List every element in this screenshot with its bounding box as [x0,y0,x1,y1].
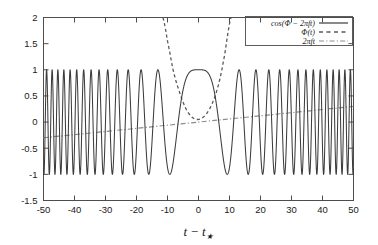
x-tick-label: 20 [255,204,266,215]
x-tick-label: -50 [37,204,51,215]
x-axis-title-subscript: ★ [206,232,214,241]
legend-label-2pift: 2πft [303,37,316,46]
y-tick-label: -0.5 [21,143,37,154]
y-tick-label: 0 [32,116,37,127]
x-tick-label: -40 [68,204,82,215]
y-tick-label: 0.5 [24,90,37,101]
legend-entry-cos: cos(Φ − 2πft) [271,19,348,28]
x-tick-label: -20 [130,204,144,215]
svg-text:t−t★: t−t★ [183,224,213,241]
series-line-2pift [44,106,354,137]
x-tick-label: 0 [196,204,201,215]
legend-entry-phi: Φ(t) [301,28,348,37]
y-tick-label: 1 [32,64,37,75]
x-tick-label: -10 [161,204,175,215]
y-tick-label: 1.5 [24,38,37,49]
x-tick-label: 10 [224,204,235,215]
legend: cos(Φ − 2πft) Φ(t) 2πft [246,17,353,46]
x-axis-title: t−t★ [183,224,213,241]
x-tick-label: 50 [348,204,359,215]
chart-canvas: -1.5-1-0.500.511.52 -50-40-30-20-1001020… [0,0,378,245]
x-tick-label: 30 [286,204,297,215]
series-line-phi [163,18,231,120]
x-axis-title-var: t [183,224,187,239]
x-tick-label: -30 [99,204,113,215]
x-axis-title-minus: − [190,224,199,239]
y-tick-label: -1 [29,169,37,180]
x-tick-label: 40 [317,204,328,215]
legend-label-phi: Φ(t) [301,28,315,37]
chart-figure: -1.5-1-0.500.511.52 -50-40-30-20-1001020… [0,0,378,245]
legend-label-cos: cos(Φ − 2πft) [271,19,315,28]
y-tick-label: -1.5 [21,195,37,206]
legend-entry-2pift: 2πft [303,37,348,46]
y-tick-label: 2 [32,12,37,23]
